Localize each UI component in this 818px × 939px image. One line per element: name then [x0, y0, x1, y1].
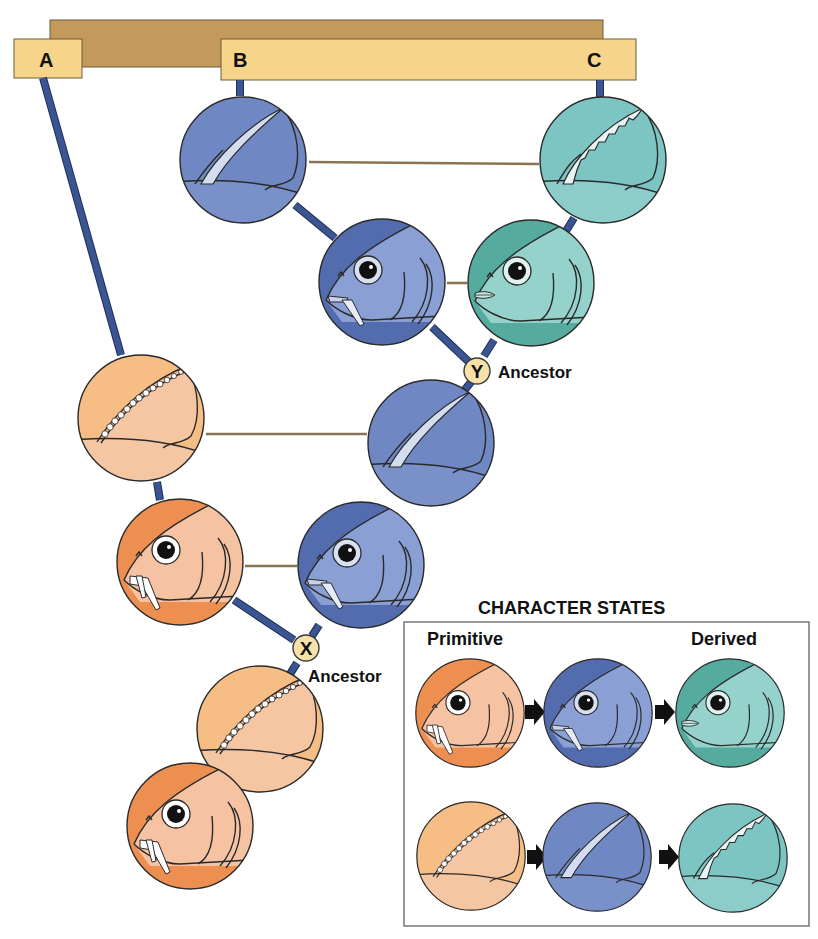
ancestor-y-label: Ancestor [498, 363, 572, 382]
legend-derived-label: Derived [691, 629, 757, 649]
ancestor-x-label: Ancestor [308, 667, 382, 686]
ancestor-x-letter: X [300, 638, 313, 659]
node-b-fin [173, 90, 313, 230]
node-c-fin [533, 90, 673, 230]
taxon-bars: A B C [14, 20, 636, 80]
taxon-label-b: B [233, 49, 247, 71]
cladogram-diagram: A B C Y A [0, 0, 818, 939]
taxon-label-c: C [587, 49, 601, 71]
legend-row-fin [411, 796, 793, 918]
ancestor-x: X Ancestor [293, 635, 382, 686]
node-y-fin [361, 373, 501, 513]
legend-primitive-label: Primitive [427, 629, 503, 649]
node-a-head [110, 492, 250, 632]
legend-row-head [410, 653, 790, 773]
node-y-head [291, 495, 431, 635]
ancestor-y-letter: Y [471, 361, 484, 382]
legend-title: CHARACTER STATES [478, 598, 665, 618]
ancestor-y: Y Ancestor [464, 358, 572, 384]
node-a-fin [71, 348, 211, 488]
taxon-label-a: A [39, 49, 53, 71]
taxon-bc-box [221, 39, 636, 80]
character-states-legend: CHARACTER STATES Primitive Derived [404, 598, 809, 926]
node-c-head [461, 213, 601, 353]
